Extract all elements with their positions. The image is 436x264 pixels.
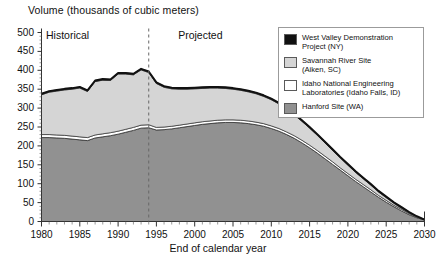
legend-item[interactable]: Hanford Site (WA)	[284, 102, 419, 114]
legend-swatch-icon	[284, 103, 297, 114]
y-axis-label: 450	[4, 45, 34, 56]
legend-item[interactable]: Savannah River Site(Aiken, SC)	[284, 56, 419, 74]
x-axis-label: 2025	[366, 229, 406, 240]
x-axis-label: 2020	[328, 229, 368, 240]
x-axis-label: 2015	[290, 229, 330, 240]
x-axis-label: 1985	[60, 229, 100, 240]
x-axis-label: 2005	[213, 229, 253, 240]
y-axis-label: 400	[4, 64, 34, 75]
y-axis-label: 50	[4, 197, 34, 208]
y-axis-label: 500	[4, 27, 34, 38]
legend-item[interactable]: West Valley DemonstrationProject (NY)	[284, 33, 419, 51]
chart-legend: West Valley DemonstrationProject (NY)Sav…	[278, 27, 424, 118]
legend-item[interactable]: Idaho National EngineeringLaboratories (…	[284, 79, 419, 97]
y-axis-label: 150	[4, 159, 34, 170]
legend-swatch-icon	[284, 57, 297, 68]
y-axis-label: 250	[4, 121, 34, 132]
legend-label: West Valley DemonstrationProject (NY)	[302, 33, 393, 51]
y-axis-label: 0	[4, 216, 34, 227]
legend-swatch-icon	[284, 80, 297, 91]
annotation-projected: Projected	[178, 29, 222, 41]
x-axis-label: 2030	[405, 229, 436, 240]
annotation-historical: Historical	[46, 29, 89, 41]
x-axis-label: 2010	[251, 229, 291, 240]
y-axis-label: 300	[4, 102, 34, 113]
x-axis-label: 1990	[98, 229, 138, 240]
legend-label: Hanford Site (WA)	[302, 102, 363, 111]
y-axis-label: 100	[4, 178, 34, 189]
x-axis-label: 1995	[136, 229, 176, 240]
chart-container: Volume (thousands of cubic meters) 05010…	[0, 0, 436, 264]
legend-label: Savannah River Site(Aiken, SC)	[302, 56, 371, 74]
x-axis-label: 2000	[175, 229, 215, 240]
x-axis-title: End of calendar year	[0, 242, 436, 254]
x-axis-label: 1980	[22, 229, 62, 240]
y-axis-label: 200	[4, 140, 34, 151]
legend-swatch-icon	[284, 34, 297, 45]
y-axis-label: 350	[4, 83, 34, 94]
legend-label: Idaho National EngineeringLaboratories (…	[302, 79, 400, 97]
